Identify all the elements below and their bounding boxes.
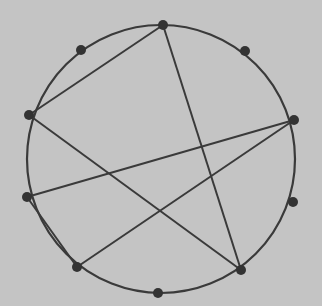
edge-n4-n7 [77,120,294,267]
node-n0 [158,20,168,30]
circle-graph-diagram [0,0,322,306]
edge-n0-n3 [29,25,163,115]
node-n8 [236,265,246,275]
node-n1 [76,45,86,55]
node-n7 [72,262,82,272]
node-n6 [288,197,298,207]
node-n3 [24,110,34,120]
edge-n5-n7 [27,197,77,267]
node-n2 [240,46,250,56]
node-n5 [22,192,32,202]
node-n9 [153,288,163,298]
node-n4 [289,115,299,125]
edge-n4-n5 [27,120,294,197]
